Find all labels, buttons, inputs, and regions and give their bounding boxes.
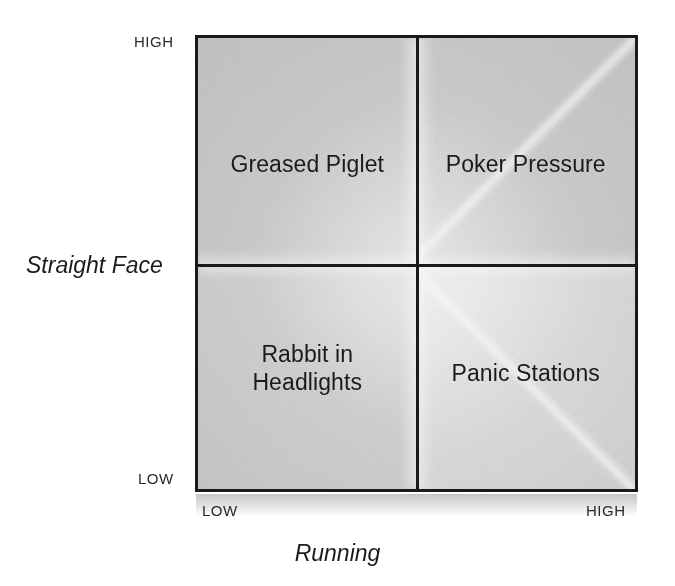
plot-area: Greased Piglet Poker Pressure Rabbit in …	[195, 35, 638, 492]
y-axis-low-tick-label: LOW	[138, 470, 174, 487]
quadrant-bottom-left-shading	[198, 265, 417, 489]
x-axis-high-tick-label: HIGH	[586, 502, 626, 519]
quadrant-bottom-left[interactable]: Rabbit in Headlights	[198, 265, 417, 489]
quadrant-matrix-diagram: Straight Face HIGH LOW Greased Piglet Po…	[0, 0, 675, 586]
quadrant-top-right[interactable]: Poker Pressure	[417, 38, 636, 265]
quadrant-top-left[interactable]: Greased Piglet	[198, 38, 417, 265]
horizontal-divider-line	[198, 264, 635, 267]
quadrant-bottom-right[interactable]: Panic Stations	[417, 265, 636, 489]
quadrant-top-left-shading	[198, 38, 417, 265]
y-axis-high-tick-label: HIGH	[134, 33, 174, 50]
y-axis-title: Straight Face	[26, 252, 163, 279]
baseline-shading-band	[196, 494, 637, 516]
x-axis-low-tick-label: LOW	[202, 502, 238, 519]
x-axis-title: Running	[0, 540, 675, 567]
